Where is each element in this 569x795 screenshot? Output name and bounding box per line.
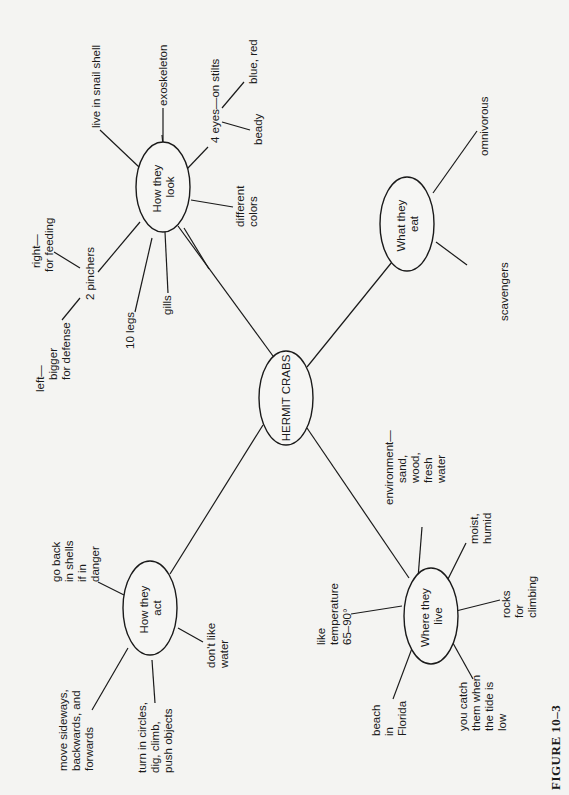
leaf-turn-in-circles: turn in circles, dig, climb, push object… <box>136 699 174 773</box>
edge-center-look <box>178 226 273 356</box>
edge-live-rocks <box>456 600 500 611</box>
leaf-omnivorous: omnivorous <box>478 96 490 156</box>
edge-look-snail <box>100 130 139 167</box>
node-what-they-eat[interactable]: What they eat <box>380 177 434 271</box>
node-label: HERMIT CRABS <box>280 354 292 441</box>
leaf-4-eyes: 4 eyes—on stilts <box>209 58 221 143</box>
eat-edges <box>433 131 477 265</box>
node-ellipse[interactable] <box>123 561 177 655</box>
node-ellipse[interactable] <box>380 177 434 271</box>
edge-look-gills <box>165 232 168 293</box>
leaf-left-bigger-defense: left— bigger for defense <box>34 322 72 392</box>
leaf-live-in-snail-shell: live in snail shell <box>90 45 102 128</box>
edge-center-eat <box>307 262 392 367</box>
edge-eyes-beady <box>222 122 250 130</box>
edge-act-shells <box>98 582 124 595</box>
edge-look-legs <box>135 238 152 312</box>
node-ellipse[interactable] <box>404 568 458 664</box>
eat-labels: omnivorous scavengers <box>478 96 510 321</box>
node-ellipse[interactable] <box>136 142 190 232</box>
leaf-10-legs: 10 legs <box>124 312 136 349</box>
leaf-moist-humid: moist, humid <box>468 510 493 544</box>
leaf-go-back-in-shells: go back in shells if in danger <box>50 537 101 582</box>
leaf-environment: environment— sand, wood, fresh water <box>383 427 447 505</box>
leaf-different-colors: different colors <box>234 182 259 227</box>
leaf-beady: beady <box>252 113 264 145</box>
leaf-like-temperature: like temperature 65–90° <box>315 580 353 645</box>
edge-act-move <box>92 648 128 710</box>
edge-live-moist <box>447 543 466 581</box>
edge-look-colors <box>191 200 233 207</box>
leaf-right-for-feeding: right— for feeding <box>30 218 55 272</box>
leaf-move-sideways: move sideways, backwards, and forwards <box>57 686 95 771</box>
edge-eat-scavengers <box>436 242 467 265</box>
edge-eat-omnivorous <box>433 131 477 193</box>
edge-live-temp <box>351 606 402 614</box>
edge-act-water <box>178 628 203 642</box>
leaf-gills: gills <box>161 295 173 315</box>
edge-pinchers-right <box>54 252 80 268</box>
node-where-they-live[interactable]: Where they live <box>404 568 458 664</box>
node-how-they-act[interactable]: How they act <box>123 561 177 655</box>
figure-caption: FIGURE 10–3 <box>548 705 563 790</box>
leaf-exoskeleton: exoskeleton <box>157 45 169 106</box>
leaf-you-catch-them: you catch them when the tide is low <box>457 672 508 731</box>
edge-look-colors-2 <box>184 228 209 269</box>
edge-look-eyes <box>187 147 208 169</box>
leaf-dont-like-water: don't like water <box>205 620 230 669</box>
leaf-scavengers: scavengers <box>498 262 510 321</box>
edge-center-act <box>170 425 263 574</box>
edge-act-turn <box>152 660 155 703</box>
leaf-blue-red: blue, red <box>247 39 259 84</box>
concept-map-figure: How they look HERMIT CRABS How they act … <box>0 0 569 795</box>
leaf-rocks-for-climbing: rocks for climbing <box>500 576 538 618</box>
concept-map-canvas: How they look HERMIT CRABS How they act … <box>0 0 569 795</box>
leaf-2-pinchers: 2 pinchers <box>84 247 96 300</box>
edge-eyes-bluered <box>222 82 244 108</box>
node-hermit-crabs[interactable]: HERMIT CRABS <box>259 351 313 445</box>
edge-live-beach <box>393 643 414 699</box>
leaf-beach-in-florida: beach in Florida <box>370 700 408 736</box>
node-how-they-look[interactable]: How they look <box>136 142 190 232</box>
edge-look-pinchers <box>98 222 140 272</box>
edge-pinchers-left <box>62 298 80 320</box>
